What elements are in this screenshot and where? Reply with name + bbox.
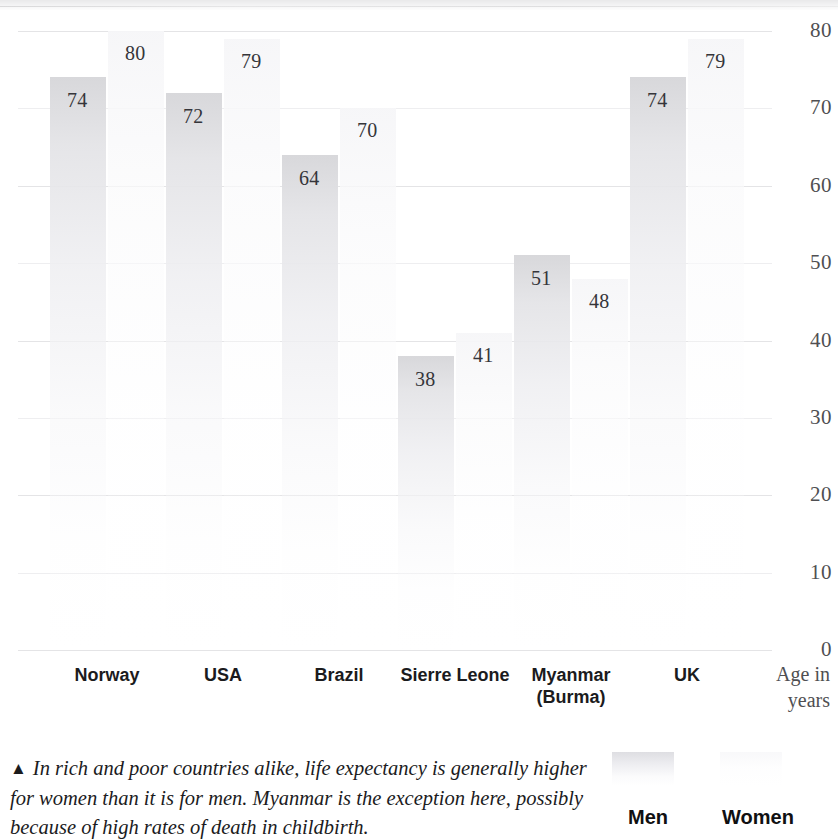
x-axis-label-line1-2: Brazil bbox=[314, 664, 363, 686]
legend-swatch-men bbox=[612, 752, 674, 786]
y-axis-tick-20: 20 bbox=[780, 484, 832, 505]
y-axis-tick-60: 60 bbox=[780, 175, 832, 196]
legend-item-men: Men bbox=[612, 752, 702, 832]
figure-caption: ▲In rich and poor countries alike, life … bbox=[10, 754, 590, 839]
y-axis-tick-70: 70 bbox=[780, 97, 832, 118]
bar-women-5 bbox=[688, 39, 744, 650]
x-axis-label-5: UK bbox=[674, 664, 700, 686]
caption-triangle-icon: ▲ bbox=[10, 759, 27, 778]
bar-women-3 bbox=[456, 333, 512, 650]
y-axis-tick-80: 80 bbox=[780, 20, 832, 41]
bar-women-0 bbox=[108, 31, 164, 650]
value-label-men-0: 74 bbox=[67, 90, 88, 110]
legend-item-women: Women bbox=[720, 752, 830, 832]
x-axis-label-2: Brazil bbox=[314, 664, 363, 686]
y-axis-tick-40: 40 bbox=[780, 330, 832, 351]
bar-men-1 bbox=[166, 93, 222, 650]
bar-women-4 bbox=[572, 279, 628, 650]
figure-footer: ▲In rich and poor countries alike, life … bbox=[0, 748, 838, 839]
x-axis-label-0: Norway bbox=[74, 664, 139, 686]
value-label-women-5: 79 bbox=[705, 51, 726, 71]
y-axis-caption-line2: years bbox=[710, 687, 830, 713]
bar-men-2 bbox=[282, 155, 338, 650]
bar-men-4 bbox=[514, 255, 570, 650]
x-axis-label-line1-0: Norway bbox=[74, 664, 139, 686]
x-axis-label-line1-4: Myanmar bbox=[531, 664, 610, 686]
value-label-women-1: 79 bbox=[241, 51, 262, 71]
x-axis-label-1: USA bbox=[204, 664, 242, 686]
x-axis-label-line1-3: Sierre Leone bbox=[400, 664, 509, 686]
x-axis-label-3: Sierre Leone bbox=[400, 664, 509, 686]
value-label-women-4: 48 bbox=[589, 291, 610, 311]
value-label-men-1: 72 bbox=[183, 106, 204, 126]
y-axis-caption: Age in years bbox=[710, 661, 830, 713]
bar-men-0 bbox=[50, 77, 106, 650]
value-label-women-2: 70 bbox=[357, 120, 378, 140]
y-axis-caption-line1: Age in bbox=[710, 661, 830, 687]
value-label-women-3: 41 bbox=[473, 345, 494, 365]
y-axis-tick-10: 10 bbox=[780, 562, 832, 583]
bar-men-5 bbox=[630, 77, 686, 650]
legend-label-men: Men bbox=[628, 806, 668, 829]
legend-label-women: Women bbox=[722, 806, 794, 829]
chart-plot-area: 80706050403020100 7480727964703841514874… bbox=[0, 0, 838, 680]
x-axis-label-4: Myanmar(Burma) bbox=[531, 664, 610, 708]
x-axis-label-line1-1: USA bbox=[204, 664, 242, 686]
caption-text: In rich and poor countries alike, life e… bbox=[10, 757, 587, 838]
x-axis-label-line1-5: UK bbox=[674, 664, 700, 686]
gridline-0 bbox=[18, 650, 772, 651]
bar-women-1 bbox=[224, 39, 280, 650]
value-label-men-4: 51 bbox=[531, 268, 552, 288]
bar-men-3 bbox=[398, 356, 454, 650]
y-axis-tick-0: 0 bbox=[780, 639, 832, 660]
bar-women-2 bbox=[340, 108, 396, 650]
value-label-men-2: 64 bbox=[299, 168, 320, 188]
value-label-men-5: 74 bbox=[647, 90, 668, 110]
x-axis-label-line2-4: (Burma) bbox=[531, 686, 610, 708]
legend-swatch-women bbox=[720, 752, 782, 786]
y-axis-tick-50: 50 bbox=[780, 252, 832, 273]
value-label-men-3: 38 bbox=[415, 369, 436, 389]
y-axis-tick-30: 30 bbox=[780, 407, 832, 428]
value-label-women-0: 80 bbox=[125, 43, 146, 63]
